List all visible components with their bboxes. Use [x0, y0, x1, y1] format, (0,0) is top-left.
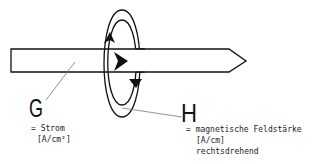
current-description: = Strom	[31, 124, 65, 133]
field-direction-down-icon	[129, 79, 142, 88]
diagram-canvas: G = Strom [A/cm²] H = magnetische Feldst…	[0, 0, 313, 164]
field-unit: [A/cm]	[196, 136, 225, 145]
field-symbol: H	[181, 98, 197, 128]
current-arrow	[11, 49, 246, 72]
field-rotation-note: rechtsdrehend	[196, 147, 259, 156]
ring-gap	[136, 50, 145, 71]
current-unit: [A/cm²]	[37, 135, 71, 144]
leader-h	[122, 108, 182, 117]
current-symbol: G	[29, 93, 43, 123]
field-description: = magnetische Feldstärke	[186, 125, 302, 134]
